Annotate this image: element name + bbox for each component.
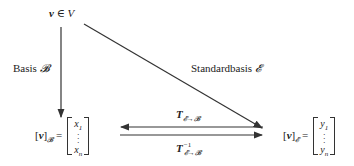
coords-b-matrix: [v]𝓑 = x1 ··· xn — [35, 117, 89, 155]
transform-subscript: 𝓔→𝓑 — [184, 149, 201, 157]
right-bracket — [330, 117, 335, 155]
transform-label: T𝓔→𝓑 — [176, 108, 200, 123]
space-symbol: V — [68, 7, 75, 19]
transform-symbol: T — [176, 108, 183, 120]
transform-subscript: 𝓔→𝓑 — [183, 115, 200, 123]
standardbasis-symbol: 𝓔 — [255, 62, 261, 74]
basis-subscript: 𝓑 — [47, 136, 53, 144]
basis-symbol: 𝓑 — [40, 62, 50, 74]
equals-sign: = — [302, 129, 308, 141]
basis-text: Basis — [13, 62, 37, 74]
inverse-transform-label: T−1𝓔→𝓑 — [176, 141, 201, 157]
standardbasis-e-label: Standardbasis 𝓔 — [191, 63, 261, 74]
entry-last: xn — [74, 144, 82, 158]
vector-in-space-label: v ∈ V — [49, 8, 74, 19]
element-of-symbol: ∈ — [57, 7, 65, 19]
vector-symbol: v — [49, 7, 54, 19]
vertical-dots: ··· — [323, 132, 326, 144]
basis-b-label: Basis 𝓑 — [13, 63, 50, 74]
matrix-entries: x1 ··· xn — [72, 118, 84, 154]
standardbasis-text: Standardbasis — [191, 62, 252, 74]
right-bracket — [84, 117, 89, 155]
coords-e-lhs: [v]𝓔 = — [283, 129, 308, 144]
vertical-dots: ··· — [77, 132, 80, 144]
coords-b-lhs: [v]𝓑 = — [35, 129, 62, 144]
basis-subscript: 𝓔 — [295, 136, 299, 144]
equals-sign: = — [56, 129, 62, 141]
vector-symbol: v — [287, 129, 292, 141]
script-stack: −1𝓔→𝓑 — [184, 141, 201, 157]
matrix-entries: y1 ··· yn — [318, 118, 330, 154]
transform-symbol: T — [176, 142, 183, 154]
coords-e-matrix: [v]𝓔 = y1 ··· yn — [283, 117, 335, 155]
entry-last: yn — [320, 144, 328, 158]
standardbasis-arrow — [84, 24, 262, 128]
inverse-superscript: −1 — [184, 141, 201, 149]
vector-symbol: v — [39, 129, 44, 141]
